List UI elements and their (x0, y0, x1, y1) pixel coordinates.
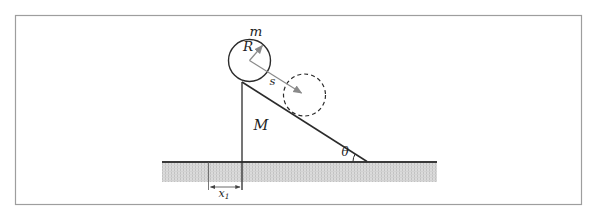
ghost-ball-circle (284, 74, 326, 116)
incline-angle-label: θ (341, 145, 349, 159)
angle-arc (353, 154, 355, 162)
displacement-label: s (270, 74, 276, 88)
physics-figure: m R s M θ x1 (0, 0, 597, 222)
ball-mass-label: m (250, 23, 263, 39)
base-distance-label: x1 (219, 187, 230, 201)
wedge-mass-label: M (253, 117, 270, 133)
ball-radius-label: R (242, 38, 253, 54)
ground-strip (162, 161, 437, 182)
base-distance-label-subscript: 1 (225, 192, 230, 201)
